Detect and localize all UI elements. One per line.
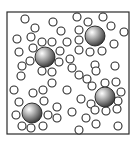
small-particle bbox=[12, 111, 20, 119]
particle-diagram bbox=[0, 0, 138, 144]
large-sphere bbox=[85, 26, 105, 46]
small-particle bbox=[48, 79, 56, 87]
small-particle bbox=[17, 72, 25, 80]
small-particle bbox=[102, 107, 110, 115]
small-particle bbox=[82, 114, 90, 122]
small-particle bbox=[75, 71, 83, 79]
small-particle bbox=[83, 75, 91, 83]
small-particle bbox=[99, 13, 107, 21]
small-particle bbox=[18, 62, 26, 70]
small-particle bbox=[15, 98, 23, 106]
large-sphere bbox=[22, 103, 42, 123]
small-particle bbox=[75, 126, 83, 134]
small-particle bbox=[66, 55, 74, 63]
small-particle bbox=[44, 111, 52, 119]
small-particle bbox=[48, 68, 56, 76]
small-particle bbox=[48, 38, 56, 46]
small-particle bbox=[38, 38, 46, 46]
small-particle bbox=[75, 26, 83, 34]
small-particle bbox=[38, 67, 46, 75]
small-particle bbox=[114, 122, 122, 130]
small-particle bbox=[68, 108, 76, 116]
small-particle bbox=[53, 114, 61, 122]
small-particle bbox=[113, 105, 121, 113]
small-particle bbox=[56, 47, 64, 55]
small-particle bbox=[101, 79, 109, 87]
small-particle bbox=[15, 48, 23, 56]
small-particle bbox=[57, 27, 65, 35]
small-particle bbox=[107, 22, 115, 30]
small-particle bbox=[49, 18, 57, 26]
small-particle bbox=[86, 48, 94, 56]
large-sphere bbox=[95, 87, 115, 107]
small-particle bbox=[13, 35, 21, 43]
small-particle bbox=[29, 44, 37, 52]
small-particle bbox=[27, 33, 35, 41]
small-particle bbox=[68, 64, 76, 72]
diagram-canvas bbox=[0, 0, 138, 144]
small-particle bbox=[55, 58, 63, 66]
small-particle bbox=[92, 120, 100, 128]
small-particle bbox=[111, 62, 119, 70]
small-particle bbox=[63, 86, 71, 94]
small-particle bbox=[73, 13, 81, 21]
small-particle bbox=[63, 38, 71, 46]
small-particle bbox=[39, 86, 47, 94]
small-particle bbox=[40, 97, 48, 105]
small-particle bbox=[21, 15, 29, 23]
small-particle bbox=[26, 57, 34, 65]
small-particle bbox=[39, 122, 47, 130]
small-particle bbox=[75, 36, 83, 44]
small-particle bbox=[91, 106, 99, 114]
small-particle bbox=[110, 40, 118, 48]
large-sphere bbox=[35, 47, 55, 67]
small-particle bbox=[18, 122, 26, 130]
small-particle bbox=[75, 46, 83, 54]
small-particle bbox=[10, 86, 18, 94]
small-particle bbox=[92, 67, 100, 75]
small-particle bbox=[31, 24, 39, 32]
small-particle bbox=[120, 28, 128, 36]
small-particle bbox=[29, 89, 37, 97]
small-particle bbox=[53, 103, 61, 111]
small-particle bbox=[88, 82, 96, 90]
small-particle bbox=[112, 78, 120, 86]
small-particle bbox=[77, 95, 85, 103]
small-particle bbox=[117, 88, 125, 96]
small-particle bbox=[98, 47, 106, 55]
small-particle bbox=[84, 18, 92, 26]
small-particle bbox=[27, 124, 35, 132]
